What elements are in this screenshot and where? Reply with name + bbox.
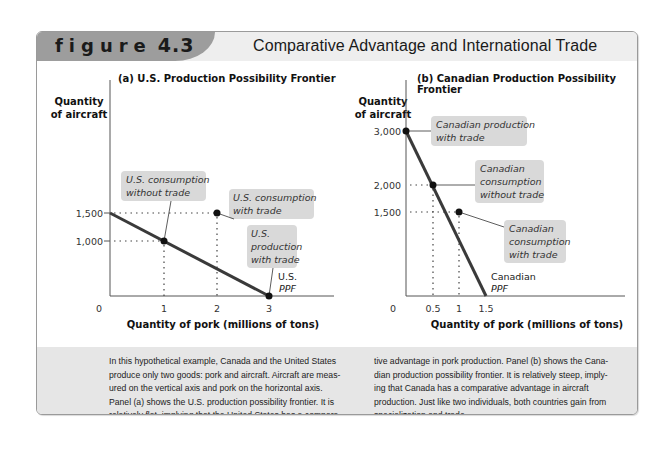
panel-b-xlabel: Quantity of pork (millions of tons) bbox=[431, 319, 623, 330]
caption-line: relatively flat, implying that the Unite… bbox=[109, 408, 341, 415]
panel-a-ytick-1500: 1,500 bbox=[76, 208, 103, 219]
caption-line: production. Just like two individuals, b… bbox=[374, 395, 608, 409]
caption-line: ing that Canada has a comparative advant… bbox=[374, 381, 608, 395]
callout-text: consumption bbox=[509, 236, 571, 247]
caption-line: In this hypothetical example, Canada and… bbox=[109, 354, 341, 368]
callout-text: without trade bbox=[480, 189, 544, 200]
panel-a-xtick-2: 2 bbox=[214, 303, 220, 314]
callout-leader bbox=[459, 212, 504, 227]
panel-a-xlabel: Quantity of pork (millions of tons) bbox=[127, 319, 319, 330]
panel-a-ylabel-1: Quantity bbox=[55, 96, 104, 107]
panel-b-ylabel-1: Quantity bbox=[359, 96, 408, 107]
panel-a-ytick-1000: 1,000 bbox=[76, 236, 103, 247]
panel-b-xtick-1: 1 bbox=[456, 303, 462, 314]
panel-b-origin: 0 bbox=[390, 303, 396, 314]
callout-text: Canadian bbox=[480, 163, 525, 174]
caption-line: ured on the vertical axis and pork on th… bbox=[109, 381, 341, 395]
panel-a-xtick-3: 3 bbox=[266, 303, 272, 314]
callout-text: U.S. consumption bbox=[126, 174, 210, 185]
panel-a-ppf-line bbox=[110, 213, 269, 296]
panel-b-ytick-3000: 3,000 bbox=[374, 126, 401, 137]
panel-a-ppf-label-1: U.S. bbox=[278, 271, 297, 282]
point-canadian-production-with-trade bbox=[403, 128, 410, 135]
panel-b-ytick-2000: 2,000 bbox=[374, 180, 401, 191]
callout-text: Canadian production bbox=[436, 119, 535, 130]
point-us-consumption-with-trade bbox=[214, 210, 221, 217]
callout-text: U.S. consumption bbox=[233, 192, 317, 203]
caption-line: tive advantage in pork production. Panel… bbox=[374, 354, 608, 368]
callout-text: Canadian bbox=[509, 223, 554, 234]
point-canadian-consumption-with-trade bbox=[456, 209, 463, 216]
callout-text: production bbox=[250, 241, 302, 252]
caption-left-column: In this hypothetical example, Canada and… bbox=[109, 354, 341, 415]
panel-b-ppf-line bbox=[406, 131, 486, 296]
panel-b-ppf-label-2: PPF bbox=[491, 283, 508, 294]
figure-container: figure4.3 Comparative Advantage and Inte… bbox=[36, 31, 638, 415]
caption-line: produce only two goods: pork and aircraf… bbox=[109, 368, 341, 382]
point-us-consumption-without-trade bbox=[161, 238, 168, 245]
callout-text: with trade bbox=[436, 132, 485, 143]
caption-line: specialization and trade. bbox=[374, 408, 608, 415]
panel-b-ylabel-2: of aircraft bbox=[355, 109, 412, 120]
callout-leader bbox=[269, 268, 273, 296]
panel-a-xtick-1: 1 bbox=[161, 303, 167, 314]
panel-b-xtick-05: 0.5 bbox=[425, 303, 440, 314]
callout-text: consumption bbox=[480, 176, 542, 187]
callout-leader bbox=[164, 201, 171, 241]
callout-text: with trade bbox=[509, 249, 558, 260]
callout-text: with trade bbox=[251, 254, 300, 265]
panel-b: Quantity of aircraft 3,000 2,000 1,500 0… bbox=[355, 80, 625, 330]
callout-text: with trade bbox=[233, 205, 282, 216]
caption-line: Panel (a) shows the U.S. production poss… bbox=[109, 395, 341, 409]
panel-a: Quantity of aircraft 1,500 1,000 0 1 2 3 bbox=[51, 80, 334, 330]
figure-caption: In this hypothetical example, Canada and… bbox=[37, 347, 637, 415]
callout-text: without trade bbox=[126, 187, 190, 198]
callout-text: U.S. bbox=[251, 228, 270, 239]
panel-b-ytick-1500: 1,500 bbox=[374, 207, 401, 218]
caption-line: dian production possibility frontier. It… bbox=[374, 368, 608, 382]
caption-right-column: tive advantage in pork production. Panel… bbox=[374, 354, 608, 415]
panel-b-xtick-15: 1.5 bbox=[478, 303, 493, 314]
panel-a-ylabel-2: of aircraft bbox=[51, 109, 108, 120]
panel-a-ppf-label-2: PPF bbox=[279, 283, 296, 294]
panel-a-origin: 0 bbox=[96, 303, 102, 314]
panel-b-ppf-label-1: Canadian bbox=[491, 271, 536, 282]
point-canadian-consumption-without-trade bbox=[430, 182, 437, 189]
charts-svg: Quantity of aircraft 1,500 1,000 0 1 2 3 bbox=[37, 32, 637, 352]
point-us-production-with-trade bbox=[266, 293, 273, 300]
